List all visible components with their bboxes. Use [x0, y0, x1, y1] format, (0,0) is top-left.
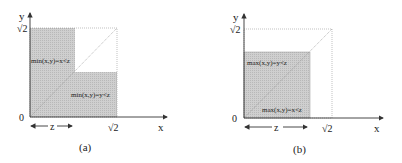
- z-label-b: z: [274, 122, 279, 133]
- y-axis-label-a: y: [19, 10, 25, 22]
- origin-label-b: 0: [232, 113, 237, 124]
- x-tick-label-a: √2: [108, 122, 119, 133]
- x-tick-label-b: √2: [322, 123, 333, 134]
- y-tick-label-a: √2: [17, 23, 28, 34]
- caption-a: (a): [79, 141, 92, 154]
- z-label-a: z: [50, 121, 55, 132]
- region-label-lower-a: min(x,y)=y<z: [71, 91, 110, 99]
- panel-b: y √2 0 √2 x z max(x,y)=y<z max(x,y)=x<z …: [230, 11, 383, 156]
- region-label-upper-b: max(x,y)=y<z: [247, 59, 287, 67]
- origin-label-a: 0: [19, 112, 24, 123]
- region-label-lower-b: max(x,y)=x<z: [262, 106, 302, 114]
- caption-b: (b): [293, 143, 306, 156]
- y-axis-label-b: y: [233, 11, 239, 23]
- y-tick-label-b: √2: [230, 24, 241, 35]
- panel-a: y √2 0 √2 x z min(x,y)=x<z min(x,y)=y<z …: [17, 10, 167, 154]
- diagram-canvas: y √2 0 √2 x z min(x,y)=x<z min(x,y)=y<z …: [0, 0, 402, 163]
- x-axis-label-b: x: [374, 122, 380, 134]
- region-label-upper-a: min(x,y)=x<z: [31, 57, 70, 65]
- x-axis-label-a: x: [158, 121, 164, 133]
